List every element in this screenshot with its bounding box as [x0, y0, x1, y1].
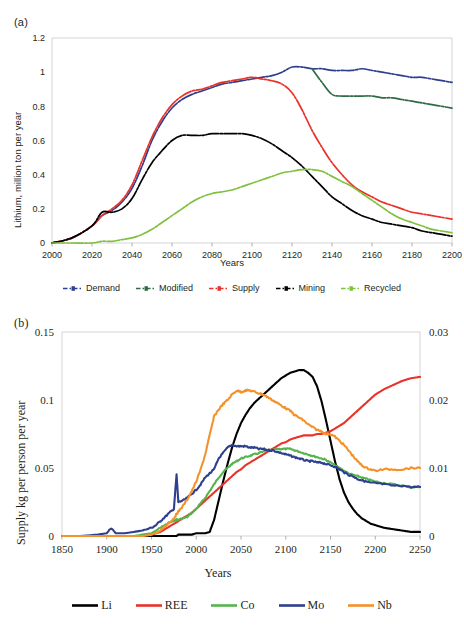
- legend-item-recycled[interactable]: Recycled: [341, 283, 401, 293]
- legend-item-demand[interactable]: Demand: [63, 283, 120, 293]
- legend-label-supply: Supply: [232, 283, 260, 293]
- panel-b: (b) Supply kg per person per year 00.050…: [0, 310, 464, 630]
- svg-text:2200: 2200: [364, 543, 387, 555]
- panel-a: (a) Lithium, million ton per year 00.20.…: [0, 0, 464, 310]
- svg-text:2150: 2150: [320, 543, 343, 555]
- svg-text:0.6: 0.6: [32, 136, 45, 146]
- series-line-mining: [52, 134, 452, 243]
- legend-label-nb: Nb: [377, 598, 392, 613]
- legend-item-mo[interactable]: Mo: [279, 598, 325, 613]
- legend-item-supply[interactable]: Supply: [209, 283, 260, 293]
- svg-text:0.03: 0.03: [429, 326, 449, 338]
- panel-a-x-axis-label: Years: [0, 257, 464, 268]
- legend-swatch-mo: [279, 601, 305, 610]
- svg-text:0: 0: [40, 238, 45, 248]
- series-line-modified: [312, 69, 452, 108]
- svg-text:1.2: 1.2: [32, 33, 45, 43]
- svg-text:2000: 2000: [185, 543, 208, 555]
- legend-item-ree[interactable]: REE: [136, 598, 188, 613]
- svg-text:0: 0: [429, 530, 435, 542]
- series-line-demand: [52, 67, 452, 243]
- series-line-co: [62, 448, 420, 536]
- legend-swatch-mining: [276, 284, 296, 293]
- legend-item-modified[interactable]: Modified: [136, 283, 193, 293]
- panel-a-plot: 00.20.40.60.811.220002020204020602080210…: [0, 0, 464, 280]
- legend-swatch-li: [72, 601, 98, 610]
- legend-swatch-modified: [136, 284, 156, 293]
- svg-text:2250: 2250: [409, 543, 432, 555]
- panel-b-plot: 00.050.10.1500.010.020.03185019001950200…: [0, 310, 464, 560]
- svg-text:0.1: 0.1: [40, 394, 54, 406]
- svg-text:0.4: 0.4: [32, 170, 45, 180]
- legend-swatch-ree: [136, 601, 162, 610]
- svg-text:2100: 2100: [275, 543, 298, 555]
- svg-text:1: 1: [40, 67, 45, 77]
- figure-container: (a) Lithium, million ton per year 00.20.…: [0, 0, 464, 630]
- legend-item-co[interactable]: Co: [211, 598, 254, 613]
- legend-item-nb[interactable]: Nb: [348, 598, 392, 613]
- svg-text:0.05: 0.05: [35, 462, 55, 474]
- legend-label-co: Co: [240, 598, 254, 613]
- legend-swatch-recycled: [341, 284, 361, 293]
- svg-text:2050: 2050: [230, 543, 253, 555]
- legend-label-modified: Modified: [159, 283, 193, 293]
- series-line-li: [62, 370, 420, 536]
- panel-b-x-axis-label: Years: [0, 566, 450, 581]
- svg-text:0.02: 0.02: [429, 394, 448, 406]
- svg-text:1900: 1900: [96, 543, 119, 555]
- svg-text:1850: 1850: [51, 543, 74, 555]
- legend-swatch-supply: [209, 284, 229, 293]
- series-line-supply: [52, 77, 452, 243]
- svg-text:0.8: 0.8: [32, 102, 45, 112]
- legend-item-mining[interactable]: Mining: [276, 283, 326, 293]
- legend-swatch-co: [211, 601, 237, 610]
- legend-label-recycled: Recycled: [364, 283, 401, 293]
- legend-label-mining: Mining: [299, 283, 326, 293]
- series-line-ree: [62, 377, 420, 536]
- panel-b-legend: LiREECoMoNb: [0, 598, 464, 613]
- svg-text:1950: 1950: [141, 543, 164, 555]
- svg-text:0.2: 0.2: [32, 204, 45, 214]
- svg-text:0: 0: [49, 530, 55, 542]
- legend-label-ree: REE: [165, 598, 188, 613]
- legend-label-li: Li: [101, 598, 112, 613]
- legend-label-demand: Demand: [86, 283, 120, 293]
- series-line-nb: [62, 390, 420, 536]
- legend-label-mo: Mo: [308, 598, 325, 613]
- svg-text:0.15: 0.15: [35, 326, 55, 338]
- legend-swatch-demand: [63, 284, 83, 293]
- legend-item-li[interactable]: Li: [72, 598, 112, 613]
- panel-a-legend: DemandModifiedSupplyMiningRecycled: [0, 283, 464, 293]
- svg-text:0.01: 0.01: [429, 462, 448, 474]
- legend-swatch-nb: [348, 601, 374, 610]
